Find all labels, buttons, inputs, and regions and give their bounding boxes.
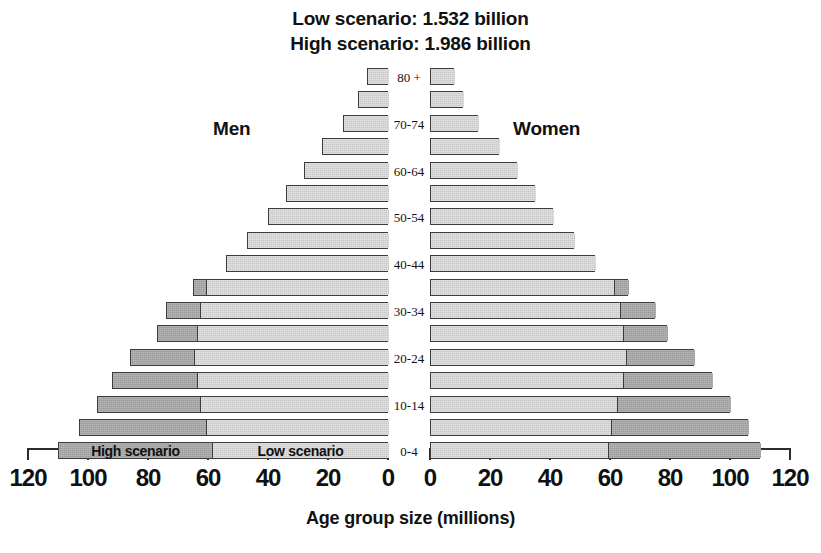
axis-tick-label-women-80: 80	[646, 464, 694, 492]
bar-men-0-4: High scenarioLow scenario	[58, 442, 388, 459]
segment-low-scenario	[194, 350, 389, 365]
bar-men-50-54	[268, 208, 388, 225]
segment-low-scenario	[431, 326, 623, 341]
axis-tick-label-men-60: 60	[184, 464, 232, 492]
axis-tick-label-men-0: 0	[364, 464, 412, 492]
bar-men-35-39	[193, 279, 388, 296]
bar-men-10-14	[97, 396, 388, 413]
bar-women-75-79	[430, 91, 463, 108]
segment-low-scenario	[431, 350, 626, 365]
segment-low-scenario	[305, 163, 389, 178]
inbar-legend-low-scenario: Low scenario	[212, 443, 389, 460]
axis-tick-men-120	[27, 448, 29, 460]
bar-men-45-49	[247, 232, 388, 249]
segment-low-scenario	[197, 326, 389, 341]
chart-title-line-2: High scenario: 1.986 billion	[0, 31, 821, 56]
bar-women-20-24	[430, 349, 694, 366]
bar-women-45-49	[430, 232, 574, 249]
axis-tick-label-women-60: 60	[586, 464, 634, 492]
age-label-60-64: 60-64	[388, 164, 430, 180]
segment-low-scenario	[431, 186, 536, 201]
segment-high-scenario	[80, 420, 206, 435]
chart-title: Low scenario: 1.532 billion High scenari…	[0, 6, 821, 56]
bar-women-30-34	[430, 302, 655, 319]
segment-low-scenario	[431, 233, 575, 248]
bar-women-15-19	[430, 372, 712, 389]
bar-men-60-64	[304, 162, 388, 179]
population-pyramid-chart: Low scenario: 1.532 billion High scenari…	[0, 0, 821, 553]
axis-tick-label-men-40: 40	[244, 464, 292, 492]
bar-men-65-69	[322, 138, 388, 155]
segment-low-scenario	[248, 233, 389, 248]
segment-low-scenario	[431, 303, 620, 318]
segment-low-scenario	[197, 373, 389, 388]
segment-high-scenario	[626, 350, 695, 365]
bar-women-80	[430, 68, 454, 85]
axis-tick-label-men-20: 20	[304, 464, 352, 492]
bar-men-55-59	[286, 185, 388, 202]
axis-tick-label-men-100: 100	[64, 464, 112, 492]
chart-title-line-1: Low scenario: 1.532 billion	[0, 6, 821, 31]
age-label-10-14: 10-14	[388, 398, 430, 414]
segment-low-scenario	[269, 209, 389, 224]
segment-high-scenario	[131, 350, 194, 365]
bar-women-60-64	[430, 162, 517, 179]
axis-tick-women-120	[789, 448, 791, 460]
age-label-70-74: 70-74	[388, 117, 430, 133]
segment-low-scenario	[359, 92, 389, 107]
bar-women-40-44	[430, 255, 595, 272]
segment-low-scenario	[368, 69, 389, 84]
bar-men-5-9	[79, 419, 388, 436]
age-label-0-4: 0-4	[388, 444, 430, 460]
inbar-legend-high-scenario: High scenario	[59, 443, 212, 460]
segment-low-scenario	[431, 280, 614, 295]
bar-women-50-54	[430, 208, 553, 225]
segment-low-scenario	[431, 163, 518, 178]
segment-high-scenario	[620, 303, 656, 318]
axis-tick-label-men-120: 120	[4, 464, 52, 492]
segment-high-scenario	[623, 373, 713, 388]
bar-women-35-39	[430, 279, 628, 296]
bar-women-0-4	[430, 442, 760, 459]
segment-low-scenario	[323, 139, 389, 154]
segment-high-scenario	[98, 397, 200, 412]
segment-high-scenario	[167, 303, 200, 318]
bar-women-65-69	[430, 138, 499, 155]
bar-women-5-9	[430, 419, 748, 436]
bar-women-10-14	[430, 396, 730, 413]
segment-high-scenario	[614, 280, 629, 295]
segment-low-scenario	[344, 116, 389, 131]
segment-low-scenario	[431, 443, 608, 458]
age-label-20-24: 20-24	[388, 351, 430, 367]
segment-low-scenario	[206, 420, 389, 435]
age-label-30-34: 30-34	[388, 304, 430, 320]
segment-high-scenario	[617, 397, 731, 412]
segment-low-scenario	[431, 209, 554, 224]
segment-low-scenario	[431, 139, 500, 154]
axis-tick-label-women-0: 0	[406, 464, 454, 492]
segment-high-scenario	[608, 443, 761, 458]
segment-low-scenario	[287, 186, 389, 201]
bar-men-15-19	[112, 372, 388, 389]
axis-tick-label-women-20: 20	[466, 464, 514, 492]
segment-low-scenario	[200, 397, 389, 412]
segment-high-scenario	[113, 373, 197, 388]
bar-men-40-44	[226, 255, 388, 272]
axis-tick-label-men-80: 80	[124, 464, 172, 492]
segment-high-scenario	[623, 326, 668, 341]
segment-low-scenario	[227, 256, 389, 271]
age-label-40-44: 40-44	[388, 257, 430, 273]
segment-low-scenario	[431, 116, 479, 131]
age-label-80: 80 +	[388, 70, 430, 86]
axis-tick-label-women-100: 100	[706, 464, 754, 492]
bar-women-25-29	[430, 325, 667, 342]
segment-low-scenario	[206, 280, 389, 295]
axis-tick-label-women-40: 40	[526, 464, 574, 492]
segment-high-scenario	[611, 420, 749, 435]
segment-low-scenario	[431, 92, 464, 107]
bar-men-25-29	[157, 325, 388, 342]
segment-low-scenario	[431, 397, 617, 412]
bar-men-70-74	[343, 115, 388, 132]
segment-high-scenario	[194, 280, 206, 295]
segment-low-scenario	[200, 303, 389, 318]
